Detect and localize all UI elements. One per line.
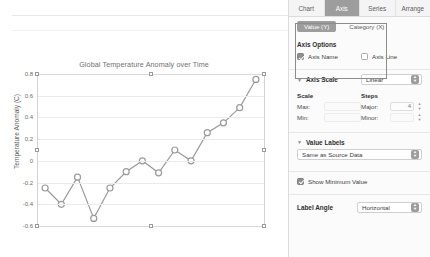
disclosure-triangle-icon-2[interactable]: ▼ — [297, 139, 302, 145]
axis-options-section: Axis Options Axis Name Axis Line — [289, 35, 430, 64]
label-angle-popup[interactable]: Horizontal ▲▼ — [357, 202, 422, 213]
scale-subheading: Scale — [297, 92, 361, 99]
data-point-marker[interactable] — [107, 185, 113, 191]
tab-axis[interactable]: Axis — [325, 0, 361, 16]
scale-max-row[interactable]: Max: — [297, 102, 361, 111]
tab-series[interactable]: Series — [360, 0, 396, 16]
steps-minor-row[interactable]: Minor: ▲▼ — [361, 113, 422, 122]
y-axis-tick-label: -0.6 — [23, 223, 33, 229]
chart-editor-window: Global Temperature Anomaly over Time Tem… — [0, 0, 430, 257]
data-point-marker[interactable] — [204, 130, 210, 136]
selection-handle[interactable] — [149, 224, 153, 228]
chevron-updown-icon-2[interactable]: ▲▼ — [411, 150, 419, 159]
axis-scale-type-popup[interactable]: Linear ▲▼ — [361, 74, 422, 85]
line-series — [37, 74, 264, 226]
format-inspector[interactable]: Chart Axis Series Arrange Value (Y) Cate… — [288, 0, 430, 257]
y-axis-label: Temperature Anomaly (C) — [13, 72, 20, 192]
plot-area[interactable]: 0.80.60.40.20-0.2-0.4-0.6 — [37, 74, 264, 226]
tab-arrange[interactable]: Arrange — [396, 0, 430, 16]
stepper-minor-icon[interactable]: ▲▼ — [417, 113, 422, 122]
selection-handle[interactable] — [35, 148, 39, 152]
data-point-marker[interactable] — [156, 170, 162, 176]
steps-minor-label: Minor: — [361, 114, 387, 121]
axis-options-heading: Axis Options — [297, 41, 422, 48]
stepper-major-icon[interactable]: ▲▼ — [417, 102, 422, 111]
disclosure-triangle-icon[interactable]: ▼ — [297, 77, 302, 83]
show-minimum-value-label: Show Minimum Value — [308, 178, 367, 185]
selection-handle[interactable] — [35, 224, 39, 228]
gridline — [37, 139, 264, 140]
canvas-second-rule — [12, 30, 288, 31]
y-axis-tick-label: 0.4 — [25, 114, 33, 120]
gridline — [37, 204, 264, 205]
scale-max-label: Max: — [297, 103, 321, 110]
gridline — [37, 161, 264, 162]
data-point-marker[interactable] — [220, 120, 226, 126]
gridline — [37, 117, 264, 118]
chart-title: Global Temperature Anomaly over Time — [0, 60, 288, 69]
minimum-value-section: Show Minimum Value — [289, 172, 430, 189]
y-axis-tick-label: 0.2 — [25, 136, 33, 142]
inspector-tabs[interactable]: Chart Axis Series Arrange — [289, 0, 430, 17]
axis-scale-type-value: Linear — [366, 76, 383, 83]
y-axis-tick-label: 0.6 — [25, 93, 33, 99]
label-angle-heading: Label Angle — [297, 204, 351, 211]
selection-handle[interactable] — [262, 72, 266, 76]
canvas-top-rule — [12, 15, 288, 16]
steps-minor-input[interactable] — [390, 113, 414, 122]
tab-chart[interactable]: Chart — [289, 0, 325, 16]
chevron-updown-icon-3[interactable]: ▲▼ — [411, 203, 419, 212]
steps-major-input[interactable]: 4 — [390, 102, 414, 111]
axis-line-checkbox-row[interactable]: Axis Line — [361, 53, 422, 60]
data-point-marker[interactable] — [42, 185, 48, 191]
y-axis-tick-label: -0.2 — [23, 180, 33, 186]
y-axis-tick-label: 0 — [30, 158, 33, 164]
chevron-updown-icon[interactable]: ▲▼ — [411, 75, 419, 84]
data-point-marker[interactable] — [237, 105, 243, 111]
data-point-marker[interactable] — [75, 174, 81, 180]
segment-category-x[interactable]: Category (X) — [342, 21, 391, 32]
data-point-marker[interactable] — [123, 169, 129, 175]
scale-min-label: Min: — [297, 114, 321, 121]
steps-major-label: Major: — [361, 103, 387, 110]
selection-handle[interactable] — [262, 224, 266, 228]
data-point-marker[interactable] — [253, 76, 259, 82]
axis-scale-section: ▼ Axis Scale Linear ▲▼ Scale Max: — [289, 70, 430, 127]
steps-subheading: Steps — [361, 92, 422, 99]
axis-name-checkbox-row[interactable]: Axis Name — [297, 53, 361, 60]
steps-major-row[interactable]: Major: 4 ▲▼ — [361, 102, 422, 111]
checkbox-checked-icon[interactable] — [297, 53, 304, 60]
axis-segmented-control[interactable]: Value (Y) Category (X) — [289, 17, 430, 35]
selection-handle[interactable] — [262, 148, 266, 152]
checkbox-unchecked-icon[interactable] — [361, 53, 368, 60]
axis-scale-heading-label: Axis Scale — [306, 76, 338, 83]
segment-value-y[interactable]: Value (Y) — [297, 21, 336, 32]
checkbox-checked-icon-2[interactable] — [297, 178, 304, 185]
y-axis-tick-label: -0.4 — [23, 201, 33, 207]
value-labels-section: ▼ Value Labels Same as Source Data ▲▼ — [289, 133, 430, 166]
show-minimum-value-row[interactable]: Show Minimum Value — [297, 178, 422, 185]
axis-name-label: Axis Name — [308, 53, 338, 60]
selection-handle[interactable] — [35, 72, 39, 76]
gridline — [37, 96, 264, 97]
value-labels-source-popup[interactable]: Same as Source Data ▲▼ — [297, 149, 422, 160]
data-point-marker[interactable] — [91, 215, 97, 221]
selection-handle[interactable] — [149, 72, 153, 76]
chart-canvas[interactable]: Global Temperature Anomaly over Time Tem… — [0, 0, 288, 257]
value-labels-heading-label: Value Labels — [306, 139, 345, 146]
value-labels-heading[interactable]: ▼ Value Labels — [297, 139, 422, 146]
value-labels-source-value: Same as Source Data — [302, 151, 363, 158]
scale-max-input[interactable] — [324, 102, 361, 111]
label-angle-value: Horizontal — [362, 204, 390, 211]
scale-min-row[interactable]: Min: — [297, 113, 361, 122]
scale-min-input[interactable] — [324, 113, 361, 122]
y-axis-tick-label: 0.8 — [25, 71, 33, 77]
data-point-marker[interactable] — [172, 147, 178, 153]
chart-figure[interactable]: Global Temperature Anomaly over Time Tem… — [0, 40, 288, 257]
axis-line-label: Axis Line — [372, 53, 397, 60]
axis-scale-heading[interactable]: ▼ Axis Scale — [297, 76, 361, 83]
gridline — [37, 183, 264, 184]
label-angle-section: Label Angle Horizontal ▲▼ — [289, 195, 430, 215]
